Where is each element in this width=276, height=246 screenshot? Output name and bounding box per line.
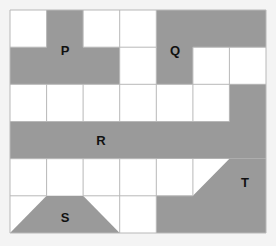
label-t: T — [241, 175, 249, 190]
label-q: Q — [170, 43, 180, 58]
label-p: P — [61, 43, 70, 58]
label-s: S — [61, 210, 70, 225]
grid-diagram: P Q R S T — [0, 0, 276, 246]
label-r: R — [96, 133, 106, 148]
shape-r-top-right — [229, 84, 266, 121]
